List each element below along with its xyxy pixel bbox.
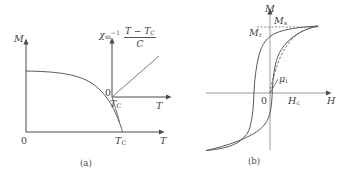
panel-a-origin-label: 0 bbox=[21, 136, 27, 146]
panel-b-saturation-base: M bbox=[274, 15, 284, 26]
figure-root: M 0 TC T χm−1 0 TC T T − TC C (a) bbox=[0, 0, 350, 179]
panel-b-coercivity-sub: c bbox=[296, 99, 299, 106]
panel-b-y-axis-label: M bbox=[265, 4, 275, 14]
panel-b-coercivity-label: Hc bbox=[288, 96, 300, 106]
panel-b-hysteresis-loop: M Ms Mr μi 0 Hc H (b) bbox=[175, 0, 350, 179]
formula-numerator-text: T − T bbox=[125, 26, 150, 36]
panel-b-saturation-sub: s bbox=[284, 19, 287, 26]
panel-a-inset-x-tick-sub: C bbox=[117, 102, 122, 109]
panel-a-x-axis-label: T bbox=[160, 136, 166, 146]
panel-a-inset-y-axis-label: χm−1 bbox=[99, 30, 120, 40]
panel-b-x-axis-label: H bbox=[327, 96, 335, 106]
panel-b-remanence-sub: r bbox=[259, 31, 262, 38]
panel-b-graphics bbox=[175, 0, 350, 179]
panel-b-remanence-label: Mr bbox=[249, 28, 262, 38]
panel-b-remanence-base: M bbox=[249, 27, 259, 38]
panel-a-x-tick-sub: C bbox=[122, 139, 127, 146]
panel-a-inset-curie-weiss-line bbox=[112, 56, 159, 97]
formula-denominator: C bbox=[124, 38, 156, 49]
panel-b-descending-branch bbox=[206, 26, 318, 151]
panel-a-y-axis-label: M bbox=[14, 34, 24, 44]
panel-a-inset-chi-symbol: χ bbox=[99, 29, 105, 40]
panel-a-caption: (a) bbox=[80, 158, 92, 168]
panel-b-saturation-label: Ms bbox=[274, 16, 287, 26]
panel-b-initial-permeability-label: μi bbox=[279, 74, 287, 84]
panel-a-inset-chi-sup: −1 bbox=[111, 29, 120, 36]
panel-a-x-tick-base: T bbox=[115, 135, 121, 146]
panel-a-inset-x-tick-label-tc: TC bbox=[110, 99, 121, 109]
panel-a-inset-x-axis-label: T bbox=[156, 101, 162, 111]
panel-a-inset-origin-label: 0 bbox=[105, 88, 111, 98]
formula-numerator-sub: C bbox=[150, 29, 155, 36]
panel-a-x-tick-label-tc: TC bbox=[115, 136, 126, 146]
panel-b-origin-label: 0 bbox=[261, 96, 267, 106]
panel-b-caption: (b) bbox=[248, 156, 260, 166]
panel-b-ascending-branch bbox=[206, 26, 318, 151]
panel-a-inset-x-tick-base: T bbox=[110, 98, 116, 109]
formula-numerator: T − TC bbox=[124, 26, 156, 38]
panel-a-magnetization-vs-temperature: M 0 TC T χm−1 0 TC T T − TC C (a) bbox=[0, 0, 175, 179]
panel-b-initial-permeability-slope bbox=[270, 79, 278, 93]
panel-a-magnetization-curve bbox=[26, 71, 123, 132]
panel-b-permeability-sub: i bbox=[285, 77, 287, 84]
panel-a-inset-curie-weiss-formula: T − TC C bbox=[124, 26, 156, 49]
